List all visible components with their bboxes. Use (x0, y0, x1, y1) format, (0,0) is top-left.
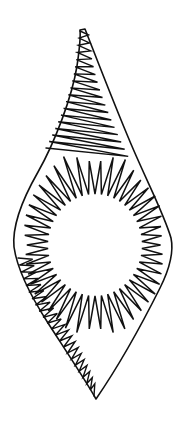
leaf-inner-void (49, 195, 141, 295)
drawing-canvas (0, 0, 186, 433)
leaf-zigzag-illustration (0, 0, 186, 433)
